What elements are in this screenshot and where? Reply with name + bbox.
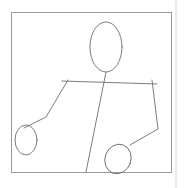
shoulders-line[interactable] [62, 81, 157, 84]
left-arm-line[interactable] [24, 80, 68, 128]
right-arm-line[interactable] [130, 80, 158, 145]
drawing-canvas[interactable] [0, 0, 184, 188]
head-shape[interactable] [90, 22, 122, 72]
vertical-scrollbar[interactable] [175, 0, 177, 188]
left-hand-shape[interactable] [15, 125, 37, 155]
right-hand-shape[interactable] [101, 140, 136, 177]
body-line[interactable] [86, 72, 106, 172]
canvas-svg[interactable] [0, 0, 184, 188]
